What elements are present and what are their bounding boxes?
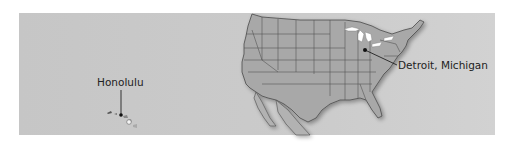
detroit-label: Detroit, Michigan [398,59,488,71]
us-mainland [242,14,424,135]
honolulu-label: Honolulu [97,76,144,88]
honolulu-marker[interactable] [119,90,123,117]
us-map [0,0,517,145]
dot-icon [363,48,367,52]
dot-icon [119,113,123,117]
